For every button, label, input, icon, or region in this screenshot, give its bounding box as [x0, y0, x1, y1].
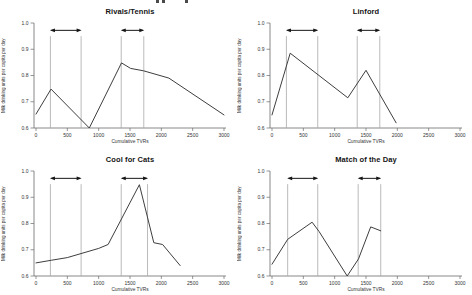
campaign-arrowhead-right: [375, 28, 380, 32]
x-tick-label: 2500: [423, 132, 434, 138]
data-line: [36, 63, 224, 128]
y-tick-label: 0.9: [22, 46, 29, 52]
x-axis-label: Cumulative TVRs: [272, 139, 460, 144]
y-tick-label: 0.9: [22, 193, 29, 199]
campaign-arrowhead-right: [313, 176, 318, 180]
axes: [270, 171, 462, 276]
x-tick-label: 2000: [156, 132, 167, 138]
x-tick-label: 3000: [454, 132, 465, 138]
x-axis-label: Cumulative TVRs: [36, 139, 224, 144]
x-tick-label: 1000: [93, 132, 104, 138]
x-tick-label: 2500: [187, 132, 198, 138]
campaign-arrowhead-left: [286, 28, 291, 32]
campaign-arrowhead-right: [376, 176, 381, 180]
x-tick-label: 0: [35, 132, 38, 138]
x-tick-label: 0: [271, 280, 274, 286]
x-axis-label: Cumulative TVRs: [36, 287, 224, 292]
y-tick-label: 0.8: [258, 72, 265, 78]
x-tick-label: 1000: [93, 280, 104, 286]
chart-panel-cool-for-cats: Cool for Cats Milk drinking units per ca…: [0, 148, 236, 295]
x-tick-label: 3000: [454, 280, 465, 286]
x-tick-label: 1500: [360, 132, 371, 138]
campaign-arrowhead-left: [50, 176, 55, 180]
y-tick-label: 1.0: [258, 167, 265, 173]
y-tick-label: 0.9: [258, 46, 265, 52]
chart-grid: Rivals/Tennis Milk drinking units per ca…: [0, 0, 472, 295]
x-tick-label: 0: [271, 132, 274, 138]
x-tick-label: 1000: [329, 280, 340, 286]
data-line: [272, 53, 396, 123]
line-chart: 0.60.70.80.91.0050010001500200025003000: [0, 0, 236, 148]
y-tick-label: 0.6: [22, 272, 29, 278]
x-tick-label: 2000: [392, 280, 403, 286]
x-tick-label: 2500: [423, 280, 434, 286]
campaign-arrowhead-right: [313, 28, 318, 32]
x-tick-label: 1500: [124, 132, 135, 138]
y-tick-label: 0.6: [22, 125, 29, 131]
y-tick-label: 0.8: [22, 72, 29, 78]
line-chart: 0.60.70.80.91.0050010001500200025003000: [236, 148, 472, 295]
campaign-arrowhead-right: [77, 28, 82, 32]
x-tick-label: 1000: [329, 132, 340, 138]
data-line: [36, 184, 180, 265]
chart-panel-rivals-tennis: Rivals/Tennis Milk drinking units per ca…: [0, 0, 236, 148]
x-tick-label: 3000: [218, 132, 229, 138]
x-tick-label: 2500: [187, 280, 198, 286]
campaign-arrowhead-left: [287, 176, 292, 180]
milk-campaign-charts-figure: Rivals/Tennis Milk drinking units per ca…: [0, 0, 472, 295]
axes: [34, 171, 226, 276]
data-line: [272, 222, 381, 276]
x-tick-label: 1500: [124, 280, 135, 286]
x-tick-label: 0: [35, 280, 38, 286]
chart-panel-linford: Linford Milk drinking units per capita p…: [236, 0, 472, 148]
y-tick-label: 0.9: [258, 193, 265, 199]
campaign-arrowhead-left: [358, 176, 363, 180]
x-tick-label: 2000: [392, 132, 403, 138]
x-tick-label: 500: [299, 132, 308, 138]
x-tick-label: 500: [63, 132, 72, 138]
y-tick-label: 1.0: [22, 167, 29, 173]
y-tick-label: 0.7: [22, 98, 29, 104]
chart-panel-match-of-the-day: Match of the Day Milk drinking units per…: [236, 148, 472, 295]
x-tick-label: 2000: [156, 280, 167, 286]
y-tick-label: 0.8: [22, 220, 29, 226]
axes: [270, 23, 462, 128]
campaign-arrowhead-left: [50, 28, 55, 32]
y-tick-label: 1.0: [22, 20, 29, 26]
y-tick-label: 0.7: [258, 98, 265, 104]
line-chart: 0.60.70.80.91.0050010001500200025003000: [0, 148, 236, 295]
y-tick-label: 0.6: [258, 272, 265, 278]
y-tick-label: 0.7: [258, 246, 265, 252]
campaign-arrowhead-right: [139, 28, 144, 32]
y-tick-label: 0.7: [22, 246, 29, 252]
y-tick-label: 1.0: [258, 20, 265, 26]
campaign-arrowhead-left: [121, 28, 126, 32]
campaign-arrowhead-left: [121, 176, 126, 180]
campaign-arrowhead-left: [357, 28, 362, 32]
y-tick-label: 0.8: [258, 220, 265, 226]
y-tick-label: 0.6: [258, 125, 265, 131]
campaign-arrowhead-right: [143, 176, 148, 180]
line-chart: 0.60.70.80.91.0050010001500200025003000: [236, 0, 472, 148]
x-tick-label: 500: [299, 280, 308, 286]
axes: [34, 23, 226, 128]
x-axis-label: Cumulative TVRs: [272, 287, 460, 292]
x-tick-label: 3000: [218, 280, 229, 286]
x-tick-label: 1500: [360, 280, 371, 286]
x-tick-label: 500: [63, 280, 72, 286]
campaign-arrowhead-right: [77, 176, 82, 180]
